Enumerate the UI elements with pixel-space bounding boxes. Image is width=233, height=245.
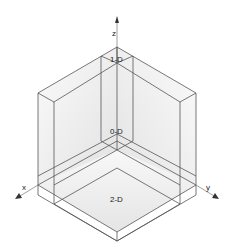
region-label-1d: 1-D xyxy=(110,55,123,64)
region-label-2d: 2-D xyxy=(110,195,123,204)
x-arrow-icon xyxy=(15,193,22,199)
z-arrow-icon xyxy=(115,16,119,23)
x-axis-label: x xyxy=(22,183,26,192)
isometric-diagram: z x y 1-D 0-D 2-D xyxy=(0,0,233,245)
y-arrow-icon xyxy=(212,193,219,199)
region-label-0d: 0-D xyxy=(110,127,123,136)
z-axis-label: z xyxy=(112,29,116,38)
y-axis-label: y xyxy=(206,183,210,192)
x-axis xyxy=(15,185,38,199)
